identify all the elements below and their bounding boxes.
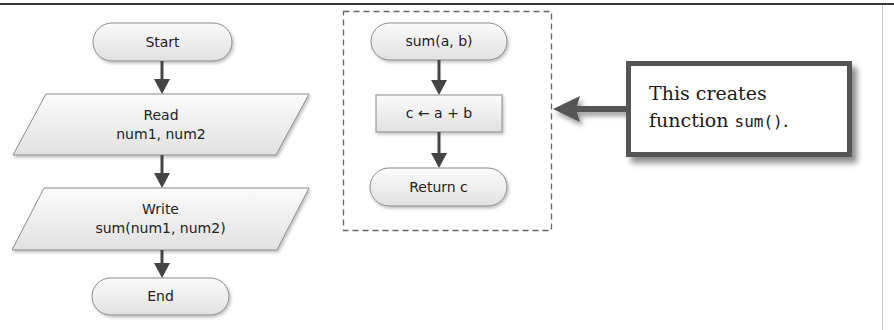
callout-note-box: This creates function sum(). — [626, 61, 852, 157]
callout-arrow-icon — [553, 96, 628, 122]
callout-line-2: function sum(). — [649, 107, 789, 135]
arrow-process-to-return — [431, 132, 447, 168]
write-label: Write sum(num1, num2) — [28, 188, 293, 250]
callout-line-2-suffix: . — [783, 109, 789, 131]
process-label: c ← a + b — [376, 95, 502, 132]
callout-line-1: This creates — [649, 80, 789, 107]
arrow-write-to-end — [154, 250, 170, 278]
arrow-start-to-read — [154, 61, 170, 94]
read-variables: num1, num2 — [116, 125, 205, 144]
read-keyword: Read — [143, 106, 178, 125]
write-keyword: Write — [142, 200, 179, 219]
sum-header-label: sum(a, b) — [371, 23, 507, 60]
arrow-header-to-process — [431, 60, 447, 95]
callout-line-2-prefix: function — [649, 109, 735, 131]
callout-text: This creates function sum(). — [649, 80, 789, 135]
flowchart-figure: Start Read num1, num2 Write sum(num1, nu… — [0, 0, 894, 330]
end-label: End — [92, 278, 229, 315]
callout-code-sum: sum() — [735, 112, 783, 131]
write-expression: sum(num1, num2) — [95, 219, 225, 238]
start-label: Start — [93, 23, 232, 61]
arrow-read-to-write — [154, 155, 170, 188]
return-label: Return c — [370, 168, 507, 206]
read-label: Read num1, num2 — [30, 94, 292, 155]
